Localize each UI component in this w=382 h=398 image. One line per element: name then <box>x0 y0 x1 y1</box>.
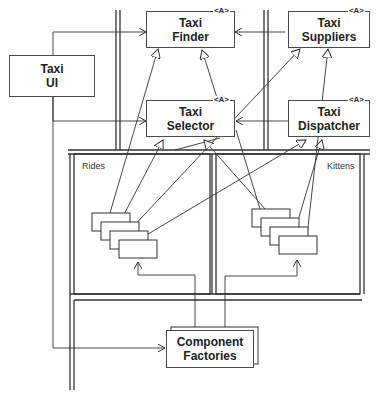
abstract-stereotype: <A> <box>348 7 365 15</box>
boundary-left-top <box>116 10 120 150</box>
taxi-selector-box[interactable]: Taxi Selector <A> <box>146 100 235 137</box>
abstract-stereotype: <A> <box>348 96 365 104</box>
taxi-ui-label: Taxi UI <box>40 62 63 90</box>
component-factories-label: Component Factories <box>177 335 244 363</box>
taxi-dispatcher-box[interactable]: Taxi Dispatcher <A> <box>288 100 370 137</box>
rides-region-label: Rides <box>82 161 105 171</box>
kittens-region-label: Kittens <box>327 161 355 171</box>
abstract-stereotype: <A> <box>213 7 230 15</box>
component-factories-box[interactable]: Component Factories <box>166 330 254 368</box>
abstract-stereotype: <A> <box>213 96 230 104</box>
taxi-finder-box[interactable]: Taxi Finder <A> <box>146 11 235 48</box>
rides-components <box>92 213 157 258</box>
taxi-dispatcher-label: Taxi Dispatcher <box>298 105 360 133</box>
boundary-right-top <box>264 10 268 150</box>
taxi-selector-label: Taxi Selector <box>167 105 214 133</box>
kittens-components <box>252 209 317 254</box>
taxi-finder-label: Taxi Finder <box>172 16 209 44</box>
taxi-suppliers-label: Taxi Suppliers <box>302 16 357 44</box>
taxi-ui-box[interactable]: Taxi UI <box>9 55 95 97</box>
taxi-suppliers-box[interactable]: Taxi Suppliers <A> <box>288 11 370 48</box>
